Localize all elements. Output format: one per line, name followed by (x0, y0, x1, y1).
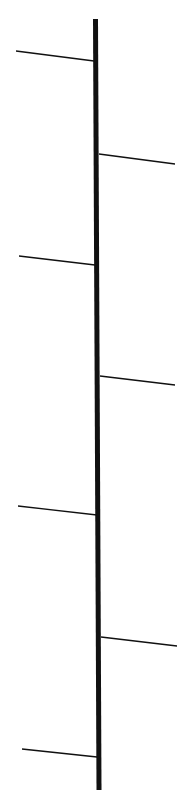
branch-line-left (19, 256, 95, 265)
branch-line-right (99, 154, 175, 164)
branch-line-right (101, 637, 177, 646)
branch-diagram (0, 0, 195, 799)
branch-line-left (22, 749, 97, 757)
vertical-trunk-line (96, 19, 100, 790)
branch-line-left (18, 506, 97, 515)
branch-line-right (100, 376, 175, 385)
branch-line-left (16, 51, 94, 61)
